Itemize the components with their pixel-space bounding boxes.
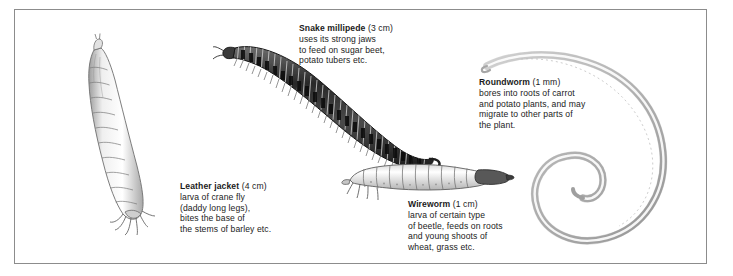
- leather-jacket-body: [89, 34, 155, 236]
- illustration-panel: Snake millipede (3 cm) uses its strong j…: [14, 9, 707, 264]
- roundworm-line-1: bores into roots of carrot: [479, 88, 585, 99]
- roundworm-line-3: migrate to other parts of: [479, 109, 585, 120]
- snake-millipede-line-1: uses its strong jaws: [299, 34, 393, 45]
- wireworm-title: Wireworm: [408, 199, 450, 209]
- roundworm-title: Roundworm: [479, 77, 530, 87]
- leather-jacket-line-4: the stems of barley etc.: [180, 224, 271, 235]
- snake-millipede-line-3: potato tubers etc.: [299, 55, 393, 66]
- leather-jacket-illustration: [63, 24, 163, 234]
- leather-jacket-line-2: (daddy long legs),: [180, 203, 271, 214]
- caption-roundworm: Roundworm (1 mm) bores into roots of car…: [479, 77, 585, 131]
- leather-jacket-size: (4 cm): [242, 181, 267, 191]
- roundworm-line-2: and potato plants, and may: [479, 99, 585, 110]
- caption-leather-jacket: Leather jacket (4 cm) larva of crane fly…: [180, 181, 271, 235]
- caption-snake-millipede: Snake millipede (3 cm) uses its strong j…: [299, 23, 393, 66]
- snake-millipede-line-2: to feed on sugar beet,: [299, 45, 393, 56]
- millipede-antennae: [213, 47, 224, 59]
- snake-millipede-title: Snake millipede: [299, 23, 365, 33]
- wireworm-line-2: of beetle, feeds on roots: [408, 221, 503, 232]
- caption-wireworm: Wireworm (1 cm) larva of certain type of…: [408, 199, 503, 253]
- wireworm-line-1: larva of certain type: [408, 210, 503, 221]
- roundworm-size: (1 mm): [533, 77, 561, 87]
- snake-millipede-size: (3 cm): [368, 23, 393, 33]
- wireworm-size: (1 cm): [453, 199, 478, 209]
- leather-jacket-title: Leather jacket: [180, 181, 239, 191]
- roundworm-illustration: [481, 28, 707, 256]
- wireworm-line-3: and young shoots of: [408, 231, 503, 242]
- leather-jacket-line-1: larva of crane fly: [180, 192, 271, 203]
- wireworm-line-4: wheat, grass etc.: [408, 242, 503, 253]
- roundworm-line-4: the plant.: [479, 120, 585, 131]
- leather-jacket-line-3: bites the base of: [180, 213, 271, 224]
